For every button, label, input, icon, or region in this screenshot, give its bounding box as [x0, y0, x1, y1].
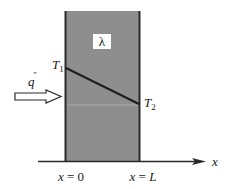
heat-flux-arrow-icon: [15, 90, 61, 103]
conductivity-label: λ: [99, 34, 106, 49]
heat-flux-label: q″: [28, 71, 37, 89]
temperature-t2-label: T2: [144, 95, 156, 112]
temperature-t1-label: T1: [52, 57, 64, 74]
tick-label-x0: x = 0: [57, 169, 84, 184]
diagram-svg: λ T1 T2 q″ x x = 0 x = L: [0, 0, 230, 189]
plane-wall-diagram: λ T1 T2 q″ x x = 0 x = L: [0, 0, 230, 189]
tick-label-xL: x = L: [129, 169, 157, 184]
x-axis-label: x: [211, 154, 218, 169]
